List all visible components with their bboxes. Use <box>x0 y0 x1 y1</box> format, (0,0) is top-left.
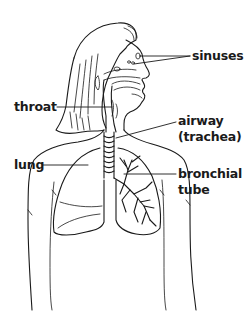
left-lung-lobe-line <box>58 202 102 228</box>
hair-top-strands <box>124 26 137 40</box>
mouth-cavity <box>112 81 142 98</box>
hair-back <box>56 58 104 133</box>
label-bronchial: bronchial <box>178 167 242 181</box>
bronchial-tree <box>114 156 156 226</box>
label-lung: lung <box>14 158 44 172</box>
ear <box>95 76 100 90</box>
sinus-small-1 <box>128 61 131 63</box>
left-arm-inner <box>50 182 54 310</box>
airway-leader <box>116 122 176 138</box>
label-trachea: (trachea) <box>178 130 241 144</box>
label-airway: airway <box>178 114 223 128</box>
label-tube: tube <box>178 183 210 197</box>
respiratory-diagram: sinuses throat airway (trachea) lung bro… <box>0 0 248 319</box>
trachea-rings <box>104 136 114 173</box>
hair-strands <box>70 54 98 130</box>
label-sinuses: sinuses <box>192 49 243 63</box>
label-throat: throat <box>14 100 57 114</box>
frontal-sinus <box>136 53 140 59</box>
left-lung <box>53 148 104 235</box>
right-arm-inner <box>162 180 166 310</box>
